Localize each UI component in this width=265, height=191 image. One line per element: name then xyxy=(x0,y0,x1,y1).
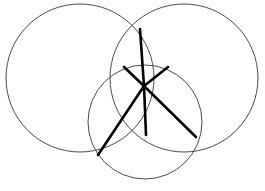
geometric-figure xyxy=(0,0,265,191)
chord-hub-to-lower-center xyxy=(144,86,146,135)
chord-hub-to-lower-right xyxy=(144,86,196,137)
chord-hub-to-upper-left xyxy=(124,67,144,86)
figure-canvas xyxy=(0,0,265,191)
circles-group xyxy=(6,4,258,179)
chords-group xyxy=(98,29,196,155)
chord-hub-to-upper-right xyxy=(144,67,168,86)
chord-hub-to-lower-left xyxy=(98,86,144,155)
